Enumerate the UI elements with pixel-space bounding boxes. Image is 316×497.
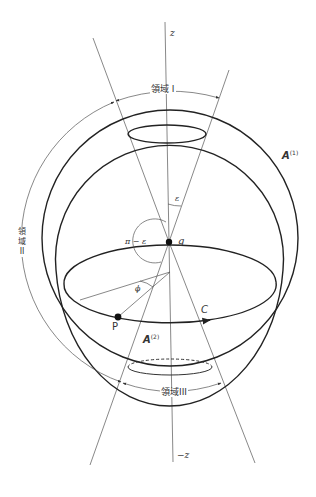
region-2-char-1: 領 [18,227,26,237]
point-p [115,314,122,321]
cone-line-upper-left [93,38,169,242]
epsilon-label: ε [175,195,179,203]
curve-c-front-right [208,282,276,320]
z-axis-label: z [170,29,175,38]
center-g-label: g [178,236,184,246]
outer-shell-name: A [282,150,290,161]
region-2-label: 領 域 II [18,227,26,257]
cone-line-upper-right [169,70,229,242]
phi-label: ϕ [135,285,140,293]
region-3-label: 領域III [160,388,188,397]
region-1-label: 領域 I [150,85,176,94]
cone-line-lower-left [90,242,169,465]
phi-arc [140,281,153,287]
inner-shell-label: A(2) [143,334,159,345]
region-2-char-2: 域 [18,237,26,247]
p-to-axis-line [118,272,170,317]
point-p-label: P [112,322,118,332]
phi-radius-line [80,272,170,300]
center-point-g [166,239,172,245]
outer-shell-label: A(1) [282,150,298,161]
bottom-cap-ellipse-front [128,367,212,375]
pi-minus-epsilon-label: π − ε [125,238,146,246]
cone-line-lower-right [169,242,255,463]
diagram-svg [0,0,316,497]
negative-z-axis-label: −z [177,451,189,460]
inner-shell-sup: (2) [151,333,160,340]
curve-c-label: C [201,305,208,315]
region-2-char-3: II [20,247,25,257]
diagram-canvas: z −z 領域 I 領 域 II 領域III A(1) A(2) ε π − ε… [0,0,316,497]
inner-shell-name: A [143,334,151,345]
region-2-arc [21,102,121,382]
outer-shell-outer-circle [42,110,298,366]
epsilon-arc [168,204,181,206]
outer-shell-sup: (1) [290,149,299,156]
